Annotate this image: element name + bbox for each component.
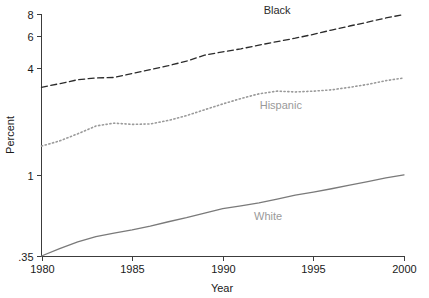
y-tick-label: .35 [18,251,33,263]
x-tick-label: 1995 [301,263,325,275]
y-axis-title: Percent [4,116,16,154]
series-line-hispanic [42,78,405,146]
x-tick-label: 1985 [120,263,144,275]
x-tick-label: 2000 [392,263,416,275]
series-label-hispanic: Hispanic [260,99,303,111]
series-annotations: BlackHispanicWhite [254,4,302,222]
series-label-white: White [254,210,282,222]
series-label-black: Black [264,4,291,16]
y-tick-labels: .351468 [18,9,33,263]
x-axis-title: Year [211,282,234,294]
chart-container: .351468 Percent 19801985199019952000 Yea… [0,0,429,298]
x-tick-label: 1980 [30,263,54,275]
y-tick-label: 8 [27,9,33,21]
y-tick-label: 6 [27,31,33,43]
line-chart: .351468 Percent 19801985199019952000 Yea… [0,0,429,298]
y-tick-label: 4 [27,63,33,75]
y-axis: .351468 Percent [4,9,42,263]
data-series-group [42,14,405,256]
series-line-white [42,175,405,256]
series-line-black [42,14,405,87]
y-tick-label: 1 [27,170,33,182]
y-tick-marks [37,15,42,257]
x-tick-labels: 19801985199019952000 [30,263,416,275]
x-tick-label: 1990 [211,263,235,275]
x-axis: 19801985199019952000 Year [30,256,416,294]
